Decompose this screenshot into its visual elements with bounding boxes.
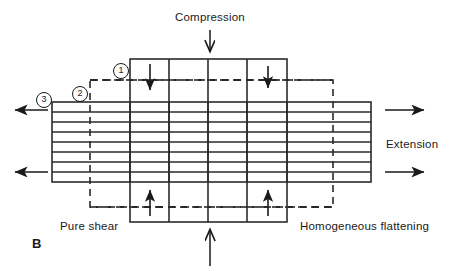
dashed-midlines <box>90 80 333 207</box>
pure-shear-dashed-square <box>90 80 333 207</box>
extension-label: Extension <box>386 138 438 150</box>
callout-1: 1 <box>113 63 129 79</box>
compression-label: Compression <box>175 11 245 23</box>
callout-2: 2 <box>72 86 88 102</box>
homogeneous-flattening-label: Homogeneous flattening <box>300 220 429 232</box>
inner-compression-arrows <box>150 64 268 216</box>
extension-box <box>52 102 371 182</box>
strain-diagram-figure: Compression Extension Pure shear Homogen… <box>0 0 455 271</box>
callout-3: 3 <box>36 92 52 108</box>
panel-label-b: B <box>32 236 42 251</box>
extension-arrows-left <box>15 110 48 172</box>
pure-shear-label: Pure shear <box>60 220 118 232</box>
